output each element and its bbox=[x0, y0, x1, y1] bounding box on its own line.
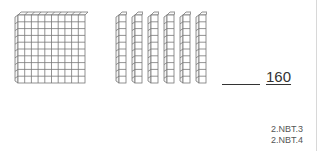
tens-rod-icon bbox=[131, 11, 143, 84]
tens-rod-icon bbox=[147, 11, 159, 84]
answer-blank-line[interactable] bbox=[222, 84, 260, 85]
page-edge-divider bbox=[316, 0, 317, 151]
standards-label: 2.NBT.3 2.NBT.4 bbox=[271, 124, 303, 146]
tens-rod-icon bbox=[115, 11, 127, 84]
hundred-flat-block bbox=[14, 11, 89, 84]
tens-rod-icon bbox=[163, 11, 175, 84]
standard-code: 2.NBT.4 bbox=[271, 135, 303, 146]
tens-rod-icon bbox=[179, 11, 191, 84]
tens-rod-icon bbox=[195, 11, 207, 84]
answer-value: 160 bbox=[266, 68, 291, 85]
tens-rods-group bbox=[115, 11, 215, 84]
standard-code: 2.NBT.3 bbox=[271, 124, 303, 135]
hundred-grid-icon bbox=[14, 11, 89, 84]
